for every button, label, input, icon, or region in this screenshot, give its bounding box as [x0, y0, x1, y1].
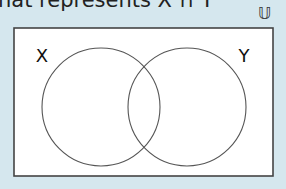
- universal-set-box: [14, 28, 273, 176]
- set-y-label: Y: [238, 45, 251, 66]
- set-x-label: X: [36, 45, 48, 66]
- venn-diagram: X Y: [0, 0, 286, 189]
